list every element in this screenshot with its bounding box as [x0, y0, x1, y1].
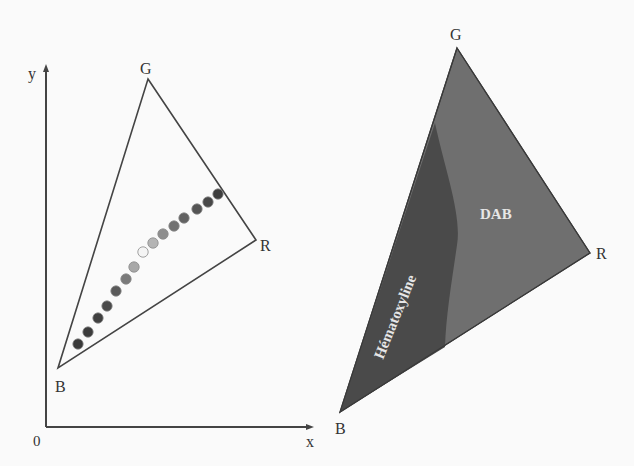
color-dot: [111, 286, 121, 296]
dab-label: DAB: [480, 206, 512, 222]
y-axis-label: y: [28, 65, 36, 83]
vertex-r-label: R: [260, 237, 271, 254]
color-dot: [83, 327, 93, 337]
left-diagram: y x 0 G R B: [28, 60, 314, 450]
diagram-canvas: y x 0 G R B G R B DAB Hématoxyline: [0, 0, 634, 466]
color-dot: [121, 274, 131, 284]
x-axis-arrow-icon: [306, 424, 314, 430]
color-dot: [169, 221, 179, 231]
color-dot: [102, 301, 112, 311]
right-vertex-b-label: B: [335, 420, 346, 437]
right-vertex-g-label: G: [450, 26, 462, 43]
rgb-triangle: [58, 79, 256, 368]
color-dot: [138, 247, 148, 257]
color-dot: [192, 204, 202, 214]
color-dot: [179, 213, 189, 223]
y-axis-arrow-icon: [43, 64, 49, 72]
color-dot: [129, 262, 139, 272]
color-dot: [203, 197, 213, 207]
x-axis-label: x: [306, 433, 314, 450]
origin-label: 0: [33, 433, 41, 449]
right-diagram: G R B DAB Hématoxyline: [335, 26, 607, 437]
color-dot: [158, 229, 168, 239]
right-vertex-r-label: R: [596, 245, 607, 262]
color-dot: [73, 339, 83, 349]
color-dots: [73, 189, 223, 349]
vertex-b-label: B: [55, 378, 66, 395]
color-dot: [148, 238, 158, 248]
color-dot: [93, 313, 103, 323]
color-dot: [213, 189, 223, 199]
hematoxyline-region: [340, 123, 458, 412]
vertex-g-label: G: [140, 60, 152, 77]
